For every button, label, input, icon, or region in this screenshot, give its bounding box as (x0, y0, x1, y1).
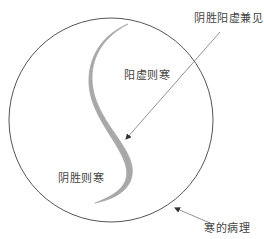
leader-line-circle (175, 208, 210, 223)
label-yin-excess-yang-deficiency: 阴胜阳虚兼见 (194, 13, 263, 24)
pathology-circle (9, 18, 213, 222)
label-yin-excess-cold: 阴胜则寒 (58, 173, 104, 184)
leader-line-yin-yang (126, 32, 220, 139)
label-cold-pathology: 寒的病理 (204, 223, 250, 234)
diagram-canvas (0, 0, 264, 239)
label-yang-deficiency-cold: 阳虚则寒 (124, 70, 170, 81)
